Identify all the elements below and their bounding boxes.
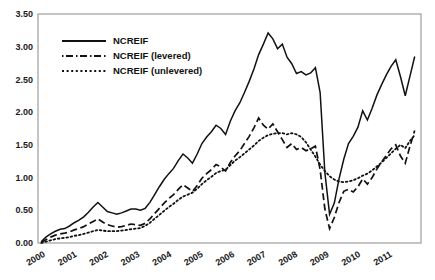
series-line-dashed	[41, 118, 415, 242]
legend-label: NCREIF (unlevered)	[113, 65, 202, 76]
line-chart: 0.000.501.001.502.002.503.003.50 2000200…	[0, 0, 435, 280]
y-axis-tick-labels: 0.000.501.001.502.002.503.003.50	[15, 9, 33, 248]
x-tick-label: 2008	[277, 249, 299, 268]
legend-label: NCREIF	[113, 35, 149, 46]
y-tick-label: 1.00	[15, 173, 33, 183]
x-axis-tick-labels: 2000200120022003200420052006200720082009…	[25, 249, 394, 268]
y-tick-label: 1.50	[15, 140, 33, 150]
chart-container: 0.000.501.001.502.002.503.003.50 2000200…	[0, 0, 435, 280]
y-tick-label: 2.50	[15, 75, 33, 85]
x-tick-label: 2001	[56, 249, 78, 268]
x-tick-label: 2003	[119, 249, 141, 268]
plot-frame	[38, 14, 421, 243]
y-tick-label: 2.00	[15, 107, 33, 117]
x-tick-label: 2010	[340, 249, 362, 268]
x-tick-label: 2004	[151, 249, 173, 268]
x-tick-label: 2007	[245, 249, 267, 268]
y-tick-label: 3.00	[15, 42, 33, 52]
y-tick-label: 3.50	[15, 9, 33, 19]
y-tick-label: 0.50	[15, 205, 33, 215]
chart-legend: NCREIFNCREIF (levered)NCREIF (unlevered)	[62, 35, 202, 76]
x-tick-label: 2000	[25, 249, 47, 268]
legend-label: NCREIF (levered)	[113, 50, 191, 61]
series-line-dotted	[41, 133, 415, 243]
x-tick-label: 2002	[88, 249, 110, 268]
x-tick-label: 2006	[214, 249, 236, 268]
series-line-solid	[41, 33, 415, 242]
x-tick-label: 2009	[308, 249, 330, 268]
x-tick-label: 2011	[372, 249, 394, 267]
y-tick-label: 0.00	[15, 238, 33, 248]
data-series-group	[41, 33, 415, 243]
x-tick-label: 2005	[182, 249, 204, 268]
